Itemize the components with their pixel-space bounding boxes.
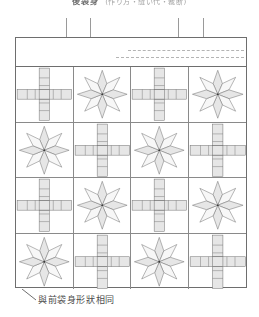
quilt-block-star [131, 123, 189, 179]
quilt-block-cross [131, 67, 189, 123]
star-shape [189, 178, 247, 233]
quilt-block-star [74, 67, 132, 123]
cross-shape [16, 67, 73, 122]
quilt-block-cross [189, 234, 247, 290]
tick-mark-4 [203, 18, 204, 38]
tick-mark-3 [178, 18, 179, 38]
star-shape [16, 123, 73, 178]
cross-shape [74, 234, 131, 290]
quilt-block-star [74, 178, 132, 234]
leader-line [22, 289, 38, 301]
pattern-diagram-sheet: 後袋身(作り方・縫い代・裁断) 與前袋身形狀相同 [0, 0, 259, 317]
quilt-block-grid [16, 67, 246, 289]
quilt-block-star [189, 178, 247, 234]
quilt-block-cross [16, 178, 74, 234]
top-band [16, 38, 246, 67]
quilt-block-cross [16, 67, 74, 123]
quilt-block-cross [74, 123, 132, 179]
quilt-block-star [16, 234, 74, 290]
diagram-top-caption: 後袋身(作り方・縫い代・裁断) [0, 0, 259, 6]
quilt-block-cross [74, 234, 132, 290]
cross-shape [16, 178, 73, 233]
star-shape [74, 67, 131, 122]
quilt-block-cross [131, 178, 189, 234]
star-shape [16, 234, 73, 290]
dashed-guide-line-2 [116, 57, 244, 58]
cross-shape [74, 123, 131, 178]
cross-shape [189, 234, 247, 290]
star-shape [131, 123, 188, 178]
caption-title: 後袋身 [72, 0, 99, 6]
quilt-block-star [16, 123, 74, 179]
cross-shape [131, 67, 188, 122]
cross-shape [131, 178, 188, 233]
back-panel-outline [15, 37, 247, 288]
bottom-note-label: 與前袋身形狀相同 [38, 293, 115, 306]
caption-subtitle: (作り方・縫い代・裁断) [105, 0, 186, 6]
star-shape [74, 178, 131, 233]
tick-mark-2 [90, 18, 91, 38]
quilt-block-star [131, 234, 189, 290]
tick-mark-1 [66, 18, 67, 38]
star-shape [189, 67, 247, 122]
cross-shape [189, 123, 247, 178]
quilt-block-star [189, 67, 247, 123]
quilt-block-cross [189, 123, 247, 179]
dashed-guide-line-1 [128, 50, 244, 51]
star-shape [131, 234, 188, 290]
